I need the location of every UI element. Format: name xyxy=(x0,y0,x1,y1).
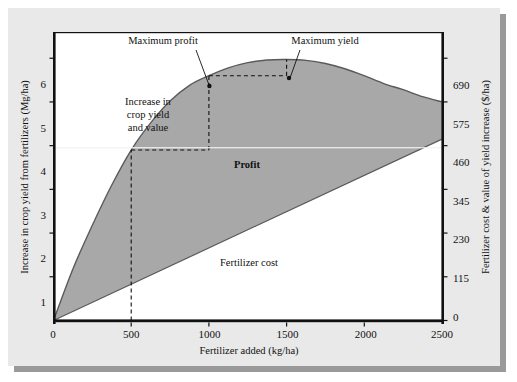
plot-top-border xyxy=(53,32,444,33)
max-profit-point xyxy=(207,84,211,88)
y2-axis-ticks xyxy=(444,58,448,320)
y-tick-label-3: 3 xyxy=(41,209,47,221)
x-axis-spine xyxy=(53,319,444,322)
max-yield-point xyxy=(287,76,291,80)
x-axis-ticks xyxy=(131,323,364,327)
profit-label: Profit xyxy=(234,159,261,170)
y-tick-label-6: 6 xyxy=(41,78,47,90)
y-tick-label-5: 5 xyxy=(41,122,47,134)
x-tick-label-500: 500 xyxy=(123,328,140,340)
x-tick-label-2500: 2500 xyxy=(431,328,454,340)
y2-tick-label-0: 0 xyxy=(453,311,459,323)
chart-svg: 6 5 4 3 2 1 690 575 460 345 230 115 0 0 … xyxy=(0,0,517,382)
fertilizer-cost-label: Fertilizer cost xyxy=(220,257,278,268)
y2-tick-label-345: 345 xyxy=(453,195,470,207)
y2-tick-label-460: 460 xyxy=(453,156,470,168)
increase-label-line3: and value xyxy=(128,122,169,133)
max-yield-label: Maximum yield xyxy=(291,35,359,46)
x-tick-label-2000: 2000 xyxy=(355,328,378,340)
x-axis-title: Fertilizer added (kg/ha) xyxy=(199,345,299,357)
y-axis-spine xyxy=(53,32,56,324)
scanline-artifact xyxy=(53,147,444,148)
y2-axis-title: Fertilizer cost & value of yield increas… xyxy=(480,80,492,274)
increase-label-line2: crop yield xyxy=(127,109,170,120)
y-axis-title: Increase in crop yield from fertilizers … xyxy=(19,80,31,274)
x-tick-label-1000: 1000 xyxy=(198,328,221,340)
figure-container: 6 5 4 3 2 1 690 575 460 345 230 115 0 0 … xyxy=(0,0,517,382)
y-tick-label-4: 4 xyxy=(41,165,47,177)
y2-tick-label-115: 115 xyxy=(453,272,470,284)
increase-label-line1: Increase in xyxy=(125,96,172,107)
y2-tick-label-230: 230 xyxy=(453,233,470,245)
y-axis-ticks xyxy=(50,58,54,277)
y2-axis-spine xyxy=(441,32,444,324)
y-tick-label-2: 2 xyxy=(41,252,47,264)
x-tick-label-1500: 1500 xyxy=(277,328,300,340)
x-tick-label-0: 0 xyxy=(50,328,56,340)
y2-tick-label-575: 575 xyxy=(453,118,470,130)
y-tick-label-1: 1 xyxy=(41,296,47,308)
y2-tick-label-690: 690 xyxy=(453,79,470,91)
max-profit-label: Maximum profit xyxy=(128,35,198,46)
